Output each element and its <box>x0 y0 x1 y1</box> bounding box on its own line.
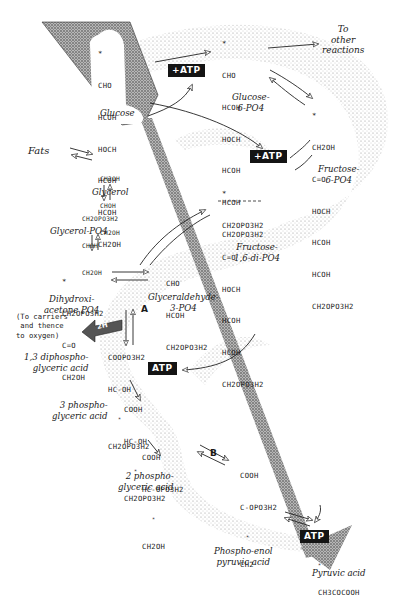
to-other-reactions-label: To other reactions <box>322 24 364 56</box>
atp-input-box-2: +ATP <box>250 150 287 163</box>
phosphoenol-pyruvic-acid-label: Phospho-enol pyruvic acid <box>214 546 273 567</box>
step-b-label: B <box>210 448 217 458</box>
glycerol-po4-label: Glycerol-PO4 <box>50 226 108 237</box>
2-phosphoglyceric-acid-formula: COOH HC-OPO3H2 * CH2OH <box>142 432 184 574</box>
1-3-diphosphoglyceric-acid-label: 1,3 diphospho- glyceric acid <box>24 352 88 373</box>
2-phosphoglyceric-acid-label: 2 phospho- glyceric acid <box>118 471 174 492</box>
atp-output-box-2: ATP <box>300 530 329 543</box>
fructose-1-6-di-po4-formula: * CH2OPO3H2 C=O HOCH HCOH HCOH CH2OPO3H2 <box>222 168 264 412</box>
3-phosphoglyceric-acid-label: 3 phospho- glyceric acid <box>52 400 108 421</box>
phosphoenol-pyruvic-acid-formula: COOH C-OPO3H2 * CH2 <box>240 450 277 592</box>
pyruvic-acid-label: Pyruvic acid <box>312 568 366 579</box>
fructose-1-6-di-po4-label: Fructose- 1,6-di-PO4 <box>234 242 280 263</box>
atp-input-box-1: +ATP <box>168 64 205 77</box>
step-a-label: A <box>141 304 148 314</box>
glucose-label: Glucose <box>100 108 135 119</box>
atp-output-box-1: ATP <box>148 362 177 375</box>
glyceraldehyde-3-po4-formula: CHO HCOH CH2OPO3H2 <box>166 258 208 375</box>
fructose-6-po4-label: Fructose- 6-PO4 <box>318 164 359 185</box>
carriers-note: (To carriers and thence to oxygen) <box>16 312 68 340</box>
glyceraldehyde-3-po4-label: Glyceraldehyde- 3-PO4 <box>148 292 219 313</box>
glucose-6-po4-label: Glucose- 6-PO4 <box>232 92 270 113</box>
fats-label: Fats <box>28 146 49 157</box>
fructose-6-po4-formula: * CH2OH C=O HOCH HCOH HCOH CH2OPO3H2 <box>312 90 354 334</box>
